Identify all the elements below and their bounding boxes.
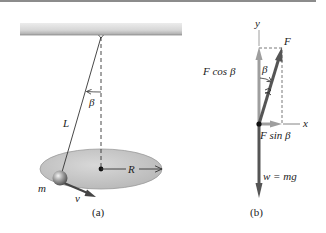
f-cos-beta-arrowhead <box>256 47 263 60</box>
y-axis-label: y <box>254 17 260 29</box>
caption-a: (a) <box>92 206 105 219</box>
weight-arrowhead <box>256 183 263 198</box>
x-axis-label: x <box>302 117 308 129</box>
pendulum-bob <box>53 171 68 186</box>
f-sin-beta-arrowhead <box>270 121 282 128</box>
beta-label-b: β <box>261 63 268 75</box>
f-cos-beta-label: F cos β <box>202 65 236 77</box>
weight-label: w = mg <box>263 170 297 182</box>
beta-angle-arc-b <box>260 78 272 82</box>
beta-angle-arc <box>87 92 102 93</box>
force-label: F <box>283 35 291 47</box>
length-label: L <box>62 117 69 129</box>
caption-b: (b) <box>250 206 263 219</box>
mass-label: m <box>38 182 46 194</box>
force-arrowhead <box>275 47 283 62</box>
beta-label-a: β <box>88 96 95 108</box>
ceiling-bar <box>20 23 182 35</box>
top-border <box>0 0 316 2</box>
velocity-arrowhead <box>85 190 97 198</box>
panel-b: y F cos β x F sin β β F w = mg (b) <box>202 17 308 219</box>
panel-a: β L R v m (a) <box>20 23 182 219</box>
origin-dot <box>256 121 261 126</box>
velocity-label: v <box>75 192 80 204</box>
f-sin-beta-label: F sin β <box>259 129 291 141</box>
conical-pendulum-figure: β L R v m (a) y F cos β <box>0 0 326 233</box>
radius-label: R <box>127 163 135 175</box>
